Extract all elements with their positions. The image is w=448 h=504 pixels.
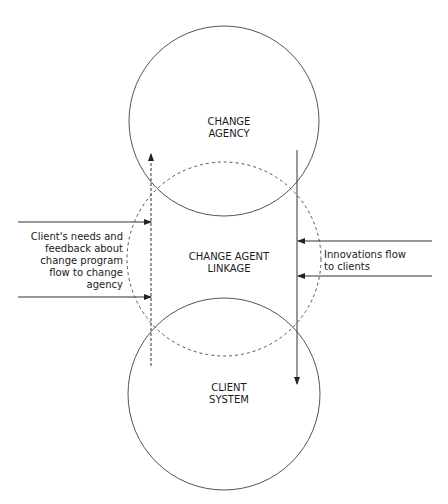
- innovations-flow-line: Innovations flow: [324, 249, 434, 261]
- linkage-label-line2: LINKAGE: [174, 263, 284, 275]
- linkage-label: CHANGE AGENT LINKAGE: [174, 251, 284, 275]
- feedback-flow-line: flow to change: [10, 267, 123, 279]
- change-agency-label: CHANGE AGENCY: [194, 116, 264, 140]
- feedback-flow-line: agency: [10, 279, 123, 291]
- change-agency-label-line2: AGENCY: [194, 128, 264, 140]
- client-system-label-line2: SYSTEM: [194, 394, 264, 406]
- change-agency-label-line1: CHANGE: [194, 116, 264, 128]
- feedback-flow-line: change program: [10, 255, 123, 267]
- linkage-label-line1: CHANGE AGENT: [174, 251, 284, 263]
- innovations-flow-line: to clients: [324, 261, 434, 273]
- client-system-label-line1: CLIENT: [194, 382, 264, 394]
- innovations-flow-label: Innovations flow to clients: [324, 249, 434, 273]
- feedback-flow-label: Client's needs and feedback about change…: [10, 231, 123, 291]
- feedback-flow-line: feedback about: [10, 243, 123, 255]
- feedback-flow-line: Client's needs and: [10, 231, 123, 243]
- client-system-label: CLIENT SYSTEM: [194, 382, 264, 406]
